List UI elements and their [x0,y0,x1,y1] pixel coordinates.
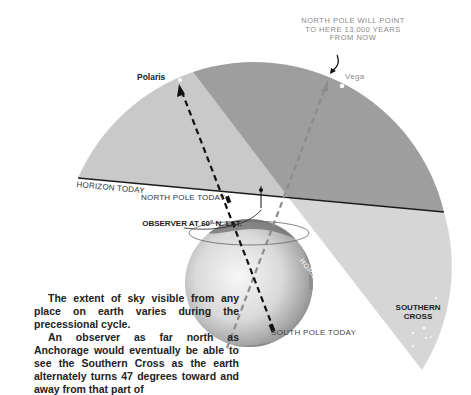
north-pole-marker [225,195,231,203]
future-note-arrow [332,55,338,71]
polaris-star [178,78,182,82]
future-pole-note: NORTH POLE WILL POINT TO HERE 13,000 YEA… [298,17,408,43]
caption-paragraph-2: An observer as far north as Anchorage wo… [34,331,239,395]
caption-paragraph-1: The extent of sky visible from any place… [34,292,239,331]
south-pole-today-label: SOUTH POLE TODAY [271,328,356,337]
caption-text: The extent of sky visible from any place… [34,292,239,395]
observer-label: OBSERVER AT 60° N. LAT. [130,219,242,229]
observer-icon [259,188,263,192]
north-pole-today-label: NORTH POLE TODAY [141,193,225,202]
vega-star [340,84,345,89]
vega-label: Vega [345,72,364,81]
polaris-label: Polaris [137,72,165,82]
southern-cross-label: SOUTHERN CROSS [388,303,448,321]
